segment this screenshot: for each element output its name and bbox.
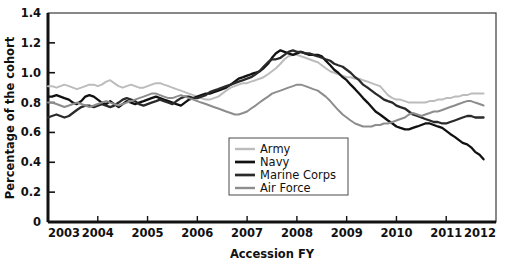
legend-label-navy: Navy: [260, 155, 289, 169]
x-tick-label: 2006: [181, 226, 213, 240]
legend-label-air-force: Air Force: [260, 181, 311, 195]
y-tick-label: 1.2: [21, 36, 41, 50]
x-tick-label: 2012: [464, 226, 496, 240]
x-axis-ticks: 2003200420052006200720082009201020112012: [48, 216, 496, 240]
y-tick-label: 0: [33, 215, 41, 229]
y-tick-label: 1.0: [21, 66, 41, 80]
x-tick-label: 2007: [231, 226, 263, 240]
y-tick-label: 0.8: [21, 96, 41, 110]
x-tick-label: 2010: [380, 226, 412, 240]
y-axis-title: Percentage of the cohort: [3, 36, 17, 199]
x-tick-label: 2004: [82, 226, 114, 240]
series-line-marine-corps: [48, 50, 484, 123]
y-tick-label: 1.4: [21, 6, 41, 20]
x-tick-label: 2011: [430, 226, 462, 240]
y-tick-label: 0.2: [21, 185, 41, 199]
legend-label-army: Army: [260, 142, 291, 156]
y-tick-label: 0.6: [21, 125, 41, 139]
legend-label-marine-corps: Marine Corps: [260, 168, 336, 182]
x-tick-label: 2003: [48, 226, 80, 240]
x-axis-title: Accession FY: [230, 247, 315, 261]
y-tick-label: 0.4: [21, 155, 41, 169]
line-chart: 00.20.40.60.81.01.21.4 20032004200520062…: [0, 0, 510, 264]
chart-container: 00.20.40.60.81.01.21.4 20032004200520062…: [0, 0, 510, 264]
chart-legend: ArmyNavyMarine CorpsAir Force: [229, 138, 348, 195]
x-tick-label: 2005: [132, 226, 164, 240]
x-tick-label: 2008: [281, 226, 313, 240]
series-line-army: [48, 55, 484, 103]
x-tick-label: 2009: [331, 226, 363, 240]
